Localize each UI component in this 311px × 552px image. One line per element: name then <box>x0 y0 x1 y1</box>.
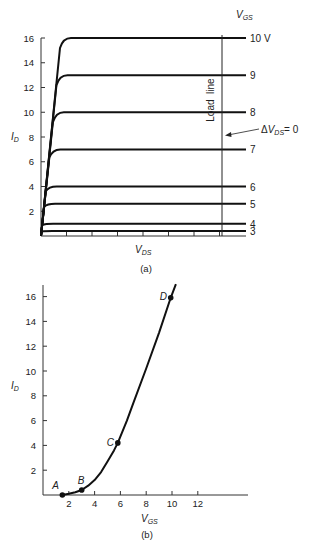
arrow-head-icon <box>225 132 232 137</box>
chart-b-axes: 24681012141624681012 <box>25 285 248 509</box>
y-tick-label: 16 <box>25 291 36 302</box>
delta-vds-label: ΔVDS= 0 <box>261 124 299 136</box>
point-label-D: D <box>160 291 167 302</box>
chart-a-output-characteristics: 246810121416 10 V9876543Load lineΔVDS= 0… <box>0 0 311 280</box>
curve-label-6: 6 <box>250 182 256 193</box>
chart-a-curves <box>41 35 246 236</box>
vgs-curve-8 <box>41 112 246 236</box>
y-tick-label: 8 <box>31 390 36 401</box>
y-tick-label: 2 <box>29 206 34 217</box>
curve-label-5: 5 <box>250 199 256 210</box>
y-tick-label: 8 <box>29 132 34 143</box>
x-tick-label: 6 <box>118 498 123 509</box>
curve-label-7: 7 <box>250 144 256 155</box>
x-tick-label: 12 <box>193 498 204 509</box>
y-tick-label: 10 <box>25 366 36 377</box>
y-tick-label: 4 <box>31 440 36 451</box>
curve-label-9: 9 <box>250 70 256 81</box>
y-tick-label: 12 <box>23 82 34 93</box>
chart-a-labels: 10 V9876543Load lineΔVDS= 0VGSIDVDS(a) <box>11 9 299 274</box>
y-tick-label: 6 <box>29 156 34 167</box>
vgs-curve-6 <box>41 187 246 237</box>
point-label-A: A <box>51 480 59 491</box>
x-tick-label: 2 <box>66 498 71 509</box>
point-D <box>168 295 174 301</box>
y-axis-label-id: ID <box>11 380 19 392</box>
y-tick-label: 16 <box>23 33 34 44</box>
annotation-arrow <box>228 129 259 135</box>
y-tick-label: 2 <box>31 465 36 476</box>
y-tick-label: 6 <box>31 415 36 426</box>
y-tick-label: 10 <box>23 107 34 118</box>
legend-title-vgs: VGS <box>236 9 253 21</box>
y-tick-label: 14 <box>25 316 36 327</box>
x-tick-label: 4 <box>92 498 97 509</box>
caption-a: (a) <box>140 263 152 274</box>
y-tick-label: 12 <box>25 341 36 352</box>
curve-label-10: 10 V <box>250 33 271 44</box>
x-axis-label-vds: VDS <box>135 244 152 256</box>
point-label-C: C <box>107 437 115 448</box>
vgs-curve-10 <box>41 38 246 236</box>
x-axis-label-vgs: VGS <box>141 513 158 525</box>
chart-b-curve <box>60 284 176 498</box>
x-tick-label: 8 <box>144 498 149 509</box>
point-A <box>60 492 66 498</box>
point-C <box>115 440 121 446</box>
chart-a-axes: 246810121416 <box>23 33 246 237</box>
point-label-B: B <box>78 475 85 486</box>
caption-b: (b) <box>141 529 153 540</box>
y-tick-label: 4 <box>29 181 34 192</box>
point-B <box>79 487 85 493</box>
y-axis-label-id: ID <box>11 131 19 143</box>
curve-label-3: 3 <box>250 226 256 237</box>
y-tick-label: 14 <box>23 57 34 68</box>
x-tick-label: 10 <box>167 498 178 509</box>
curve-label-8: 8 <box>250 107 256 118</box>
load-line-label: Load line <box>205 78 216 122</box>
chart-b-labels: ABCDIDVGS(b) <box>11 291 167 540</box>
transfer-curve <box>62 284 176 495</box>
